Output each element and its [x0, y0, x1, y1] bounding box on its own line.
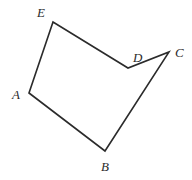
- vertex-label-A: A: [12, 88, 20, 101]
- vertex-label-B: B: [101, 160, 109, 173]
- polygon-figure: A B C D E: [0, 0, 192, 180]
- vertex-label-D: D: [133, 51, 142, 64]
- polygon-drawing: [0, 0, 192, 180]
- vertex-label-E: E: [37, 6, 45, 19]
- polygon-outline-path: [29, 22, 169, 151]
- vertex-label-C: C: [175, 46, 184, 59]
